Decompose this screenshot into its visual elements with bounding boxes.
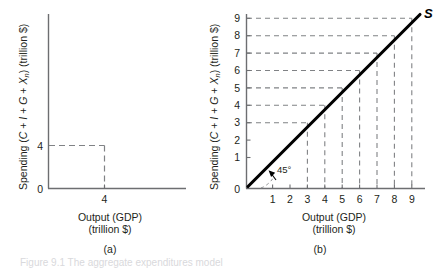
panel-a-y-tick-4: 4 [37, 140, 43, 152]
panel-b-x-tick-3: 3 [304, 193, 310, 205]
panel-a-x-axis-title-line2: (trillion $) [88, 223, 131, 235]
panel-b-y-tick-6: 6 [234, 64, 240, 76]
figure-svg: Spending (C + I + G + Xn) (trillion $) 4… [0, 0, 437, 269]
panel-b-x-tick-8: 8 [391, 193, 397, 205]
panel-b-y-tick-5: 5 [234, 82, 240, 94]
panel-b-x-tick-1: 1 [270, 193, 276, 205]
panel-b-x-tick-9: 9 [409, 193, 415, 205]
panel-b-angle-label: 45° [277, 164, 292, 175]
panel-a-y-tick-0: 0 [37, 183, 43, 195]
panel-b-y-tick-0: 0 [234, 183, 240, 195]
panel-b-y-tick-1: 1 [234, 151, 240, 163]
panel-b-x-tick-6: 6 [357, 193, 363, 205]
panel-b-y-tick-7: 7 [234, 47, 240, 59]
panel-b-y-axis-title: Spending (C + I + G + Xn) (trillion $) [208, 24, 222, 190]
panel-b-angle-arc [261, 178, 274, 189]
panel-b-x-tick-7: 7 [374, 193, 380, 205]
panel-b-x-axis-title-line1: Output (GDP) [302, 211, 366, 223]
panel-a-x-tick-4: 4 [102, 193, 108, 205]
panel-b-x-tick-2: 2 [287, 193, 293, 205]
panel-b-y-tick-3: 3 [234, 116, 240, 128]
panel-a-caption: (a) [104, 243, 117, 255]
panel-a: Spending (C + I + G + Xn) (trillion $) 4… [17, 14, 186, 255]
panel-b: Spending (C + I + G + Xn) (trillion $) [208, 6, 433, 255]
cropped-page-text: Figure 9.1 The aggregate expenditures mo… [20, 257, 223, 268]
panel-a-x-axis-title-line1: Output (GDP) [78, 211, 142, 223]
panel-b-y-tick-4: 4 [234, 99, 240, 111]
panel-a-y-axis-title: Spending (C + I + G + Xn) (trillion $) [17, 24, 31, 190]
panel-b-y-tick-9: 9 [234, 12, 240, 24]
panel-b-angle-arrow-head [270, 171, 275, 176]
panel-b-x-axis-title-line2: (trillion $) [312, 223, 355, 235]
panel-b-y-tick-8: 8 [234, 29, 240, 41]
figure-container: Spending (C + I + G + Xn) (trillion $) 4… [0, 0, 437, 269]
panel-b-line-label-s: S [424, 6, 433, 21]
panel-b-caption: (b) [314, 243, 327, 255]
panel-b-x-tick-5: 5 [339, 193, 345, 205]
panel-b-x-tick-4: 4 [322, 193, 328, 205]
panel-b-y-tick-2: 2 [234, 134, 240, 146]
